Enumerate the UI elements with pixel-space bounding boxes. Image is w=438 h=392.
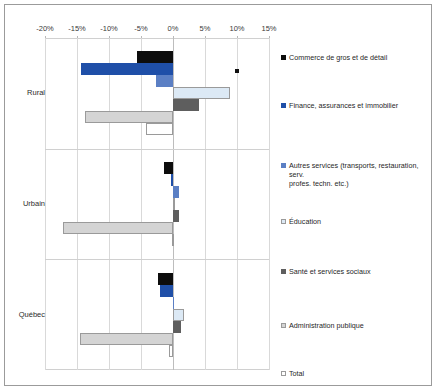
bar-rural-series-6	[146, 123, 173, 135]
plot-top-border	[45, 38, 269, 39]
legend-item-5[interactable]: Administration publique	[281, 321, 432, 330]
bar-urbain-series-0	[164, 162, 173, 174]
bar-rural-series-2	[156, 75, 173, 87]
legend-label: Autres services (transports, restauratio…	[289, 161, 432, 188]
bar-québec-series-5	[80, 333, 173, 345]
legend-swatch-icon	[281, 103, 286, 108]
legend-item-1[interactable]: Finance, assurances et immobilier	[281, 101, 432, 110]
legend-item-2[interactable]: Autres services (transports, restauratio…	[281, 161, 432, 188]
legend-swatch-icon	[281, 269, 286, 274]
x-tick-label: -5%	[134, 24, 147, 33]
bar-urbain-series-2	[173, 186, 179, 198]
x-tick-label: -10%	[100, 24, 118, 33]
bar-québec-series-3	[173, 309, 184, 321]
legend-label: Finance, assurances et immobilier	[289, 101, 398, 110]
gridline-neg10	[109, 38, 110, 370]
legend-label: Total	[289, 369, 304, 378]
legend-label: Administration publique	[289, 321, 364, 330]
bar-québec-series-1	[160, 285, 173, 297]
legend-item-6[interactable]: Total	[281, 369, 432, 378]
bar-québec-series-6	[169, 345, 173, 357]
legend-label: Commerce de gros et de détail	[289, 53, 387, 62]
category-label-urbain: Urbain	[9, 199, 45, 208]
legend-item-0[interactable]: Commerce de gros et de détail	[281, 53, 432, 62]
x-axis-tick-row: -20%-15%-10%-5%0%5%10%15%	[45, 24, 269, 36]
gridline-neg20	[45, 38, 46, 370]
bar-urbain-series-3	[173, 198, 175, 210]
chart-frame: -20%-15%-10%-5%0%5%10%15% RuralUrbainQué…	[4, 4, 432, 386]
x-tick-label: 0%	[168, 24, 179, 33]
legend-swatch-icon	[281, 323, 286, 328]
gridline-neg5	[141, 38, 142, 370]
legend-swatch-icon	[281, 55, 286, 60]
bar-rural-series-4	[173, 99, 199, 111]
x-tick-label: -15%	[68, 24, 86, 33]
x-tick-label: 5%	[200, 24, 211, 33]
bar-rural-series-5	[85, 111, 173, 123]
legend-label: Santé et services sociaux	[289, 267, 371, 276]
rural-marker-icon	[235, 69, 239, 73]
bar-rural-series-1	[81, 63, 173, 75]
group-separator	[45, 259, 269, 260]
bar-urbain-series-6	[172, 234, 174, 246]
x-tick-label: -20%	[36, 24, 54, 33]
bar-québec-series-4	[173, 321, 181, 333]
chart-legend: Commerce de gros et de détailFinance, as…	[281, 39, 432, 369]
legend-swatch-icon	[281, 219, 286, 224]
x-tick-label: 15%	[261, 24, 276, 33]
plot-area: RuralUrbainQuébec	[45, 38, 269, 370]
gridline-neg15	[77, 38, 78, 370]
legend-label: Éducation	[289, 217, 321, 226]
legend-item-4[interactable]: Santé et services sociaux	[281, 267, 432, 276]
legend-item-3[interactable]: Éducation	[281, 217, 432, 226]
bar-urbain-series-4	[173, 210, 179, 222]
gridline-10	[237, 38, 238, 370]
bar-urbain-series-1	[171, 174, 173, 186]
bar-rural-series-3	[173, 87, 230, 99]
bar-rural-series-0	[137, 51, 173, 63]
bar-québec-series-0	[158, 273, 173, 285]
category-label-rural: Rural	[9, 88, 45, 97]
bar-québec-series-2	[173, 297, 174, 309]
category-label-québec: Québec	[9, 310, 45, 319]
bar-urbain-series-5	[63, 222, 173, 234]
legend-swatch-icon	[281, 371, 286, 376]
gridline-15	[269, 38, 270, 370]
plot-bottom-border	[45, 369, 269, 370]
legend-swatch-icon	[281, 163, 286, 168]
group-separator	[45, 149, 269, 150]
x-tick-label: 10%	[229, 24, 244, 33]
